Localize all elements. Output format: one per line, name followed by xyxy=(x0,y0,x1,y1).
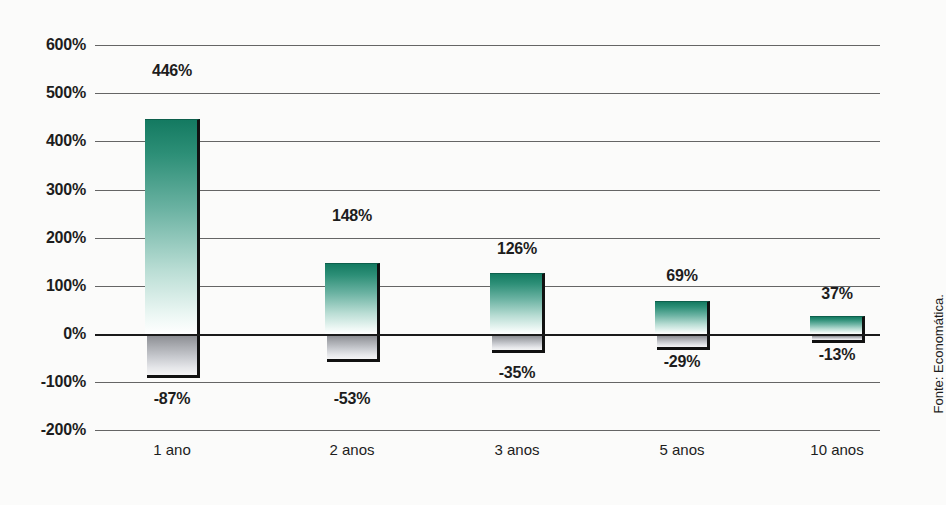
x-tick-label-1-ano: 1 ano xyxy=(153,441,191,458)
data-label-negative: -53% xyxy=(334,390,371,408)
data-label-positive: 126% xyxy=(497,240,537,258)
data-label-negative: -35% xyxy=(499,364,536,382)
bar-negative[interactable] xyxy=(147,336,200,378)
data-label-positive: 148% xyxy=(332,207,372,225)
x-tick-label-3-anos: 3 anos xyxy=(494,441,539,458)
y-tick-label: -200% xyxy=(0,421,86,439)
y-tick-label: 600% xyxy=(0,36,86,54)
plot-area xyxy=(95,45,880,430)
data-label-positive: 37% xyxy=(821,285,852,303)
data-label-negative: -13% xyxy=(819,346,856,364)
y-tick-label: 0% xyxy=(0,325,86,343)
bar-group-10-anos xyxy=(810,45,925,430)
bar-group-1-ano xyxy=(145,45,260,430)
x-tick-label-10-anos: 10 anos xyxy=(810,441,863,458)
bar-positive[interactable] xyxy=(655,301,710,334)
data-label-negative: -29% xyxy=(664,353,701,371)
bar-negative[interactable] xyxy=(492,336,545,353)
bar-positive[interactable] xyxy=(490,273,545,334)
bar-negative[interactable] xyxy=(657,336,710,350)
y-tick-label: 200% xyxy=(0,229,86,247)
y-tick-label: -100% xyxy=(0,373,86,391)
bar-positive[interactable] xyxy=(325,263,380,334)
bar-group-2-anos xyxy=(325,45,440,430)
data-label-positive: 69% xyxy=(666,267,697,285)
x-tick-label-2-anos: 2 anos xyxy=(329,441,374,458)
y-tick-label: 100% xyxy=(0,277,86,295)
y-tick-label: 300% xyxy=(0,181,86,199)
bar-group-5-anos xyxy=(655,45,770,430)
data-label-negative: -87% xyxy=(154,390,191,408)
bar-negative[interactable] xyxy=(327,336,380,362)
x-tick-label-5-anos: 5 anos xyxy=(659,441,704,458)
bar-positive[interactable] xyxy=(145,119,200,334)
data-label-positive: 446% xyxy=(152,62,192,80)
y-tick-label: 400% xyxy=(0,132,86,150)
y-tick-label: 500% xyxy=(0,84,86,102)
gridline-minus200 xyxy=(95,430,880,431)
source-note: Fonte: Economática. xyxy=(931,294,946,413)
bar-negative[interactable] xyxy=(812,336,865,343)
bar-positive[interactable] xyxy=(810,316,865,334)
